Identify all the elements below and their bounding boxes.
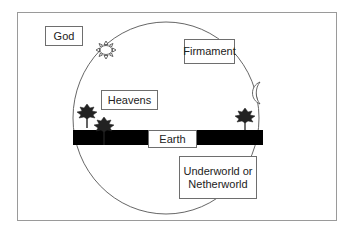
tree-icon bbox=[235, 108, 255, 130]
god-label: God bbox=[45, 26, 83, 46]
underworld-label: Underworld or Netherworld bbox=[179, 156, 257, 199]
sun-icon bbox=[96, 41, 116, 59]
firmament-text: Firmament bbox=[183, 45, 236, 58]
tree-icon bbox=[77, 104, 97, 128]
underworld-text-line2: Netherworld bbox=[188, 178, 247, 191]
god-text: God bbox=[54, 30, 75, 43]
earth-text: Earth bbox=[159, 133, 185, 146]
underworld-text-line1: Underworld or bbox=[183, 165, 252, 178]
firmament-label: Firmament bbox=[184, 39, 235, 64]
earth-label: Earth bbox=[148, 130, 197, 148]
heavens-label: Heavens bbox=[101, 90, 158, 110]
heavens-text: Heavens bbox=[108, 94, 151, 107]
